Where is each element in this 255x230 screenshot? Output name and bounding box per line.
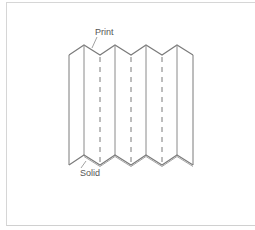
dashed-fold-lines [100, 57, 162, 163]
top-zigzag-edge [69, 45, 193, 55]
solid-leader-line [81, 161, 86, 168]
label-leader-lines [81, 37, 97, 168]
accordion-fold-diagram [0, 0, 255, 230]
solid-label: Solid [80, 169, 100, 178]
print-leader-line [92, 37, 97, 48]
print-label: Print [95, 28, 114, 37]
